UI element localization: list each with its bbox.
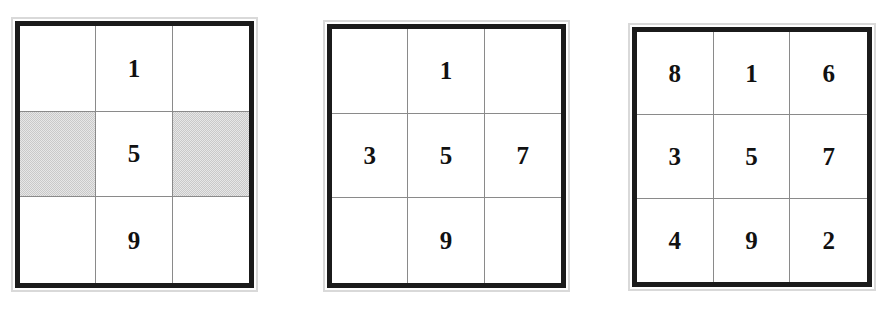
- cell-r2c0[interactable]: [332, 198, 408, 283]
- cell-digit: 5: [128, 141, 141, 166]
- cell-digit: 7: [822, 144, 835, 169]
- magic-square-figure-2: 1 3 5 7 9: [323, 20, 570, 292]
- cell-digit: 5: [440, 143, 453, 168]
- cell-r0c0[interactable]: 8: [637, 32, 714, 115]
- cell-r0c1[interactable]: 1: [714, 32, 791, 115]
- cell-r2c1[interactable]: 9: [714, 199, 791, 282]
- cell-r1c1[interactable]: 5: [714, 115, 791, 198]
- cell-r2c0[interactable]: [20, 197, 96, 283]
- cell-r1c2[interactable]: 7: [485, 114, 561, 199]
- magic-square-figure-3: 8 1 6 3 5 7 4: [628, 23, 876, 291]
- figure-page: 1 5 9: [0, 0, 881, 311]
- cell-digit: 9: [745, 228, 758, 253]
- cell-digit: 5: [745, 144, 758, 169]
- square-border-1: 1 5 9: [15, 21, 254, 288]
- square-border-3: 8 1 6 3 5 7 4: [632, 27, 872, 287]
- cell-r2c0[interactable]: 4: [637, 199, 714, 282]
- cell-digit: 3: [669, 144, 682, 169]
- cell-digit: 2: [822, 228, 835, 253]
- cell-digit: 8: [669, 61, 682, 86]
- cell-r1c0[interactable]: 3: [332, 114, 408, 199]
- cell-r0c2[interactable]: 6: [790, 32, 867, 115]
- cell-digit: 3: [363, 143, 376, 168]
- cell-r2c1[interactable]: 9: [408, 198, 484, 283]
- cell-r2c2[interactable]: [173, 197, 249, 283]
- cell-r2c1[interactable]: 9: [96, 197, 172, 283]
- cell-r1c2-shaded[interactable]: [173, 112, 249, 198]
- cell-digit: 1: [440, 58, 453, 83]
- cell-r2c2[interactable]: 2: [790, 199, 867, 282]
- cell-digit: 7: [517, 143, 530, 168]
- cell-r0c1[interactable]: 1: [408, 29, 484, 114]
- square-border-2: 1 3 5 7 9: [327, 24, 566, 288]
- cell-r0c2[interactable]: [173, 26, 249, 112]
- square-grid-1: 1 5 9: [20, 26, 249, 283]
- cell-r0c0[interactable]: [20, 26, 96, 112]
- cell-r0c0[interactable]: [332, 29, 408, 114]
- cell-digit: 1: [128, 56, 141, 81]
- cell-r0c1[interactable]: 1: [96, 26, 172, 112]
- cell-r1c0-shaded[interactable]: [20, 112, 96, 198]
- cell-digit: 9: [440, 228, 453, 253]
- cell-digit: 6: [822, 61, 835, 86]
- magic-square-figure-1: 1 5 9: [11, 17, 258, 292]
- cell-r1c1[interactable]: 5: [408, 114, 484, 199]
- cell-r1c0[interactable]: 3: [637, 115, 714, 198]
- cell-digit: 4: [669, 228, 682, 253]
- cell-r1c1[interactable]: 5: [96, 112, 172, 198]
- cell-r0c2[interactable]: [485, 29, 561, 114]
- cell-r2c2[interactable]: [485, 198, 561, 283]
- square-grid-3: 8 1 6 3 5 7 4: [637, 32, 867, 282]
- cell-digit: 1: [745, 61, 758, 86]
- square-grid-2: 1 3 5 7 9: [332, 29, 561, 283]
- cell-r1c2[interactable]: 7: [790, 115, 867, 198]
- cell-digit: 9: [128, 228, 141, 253]
